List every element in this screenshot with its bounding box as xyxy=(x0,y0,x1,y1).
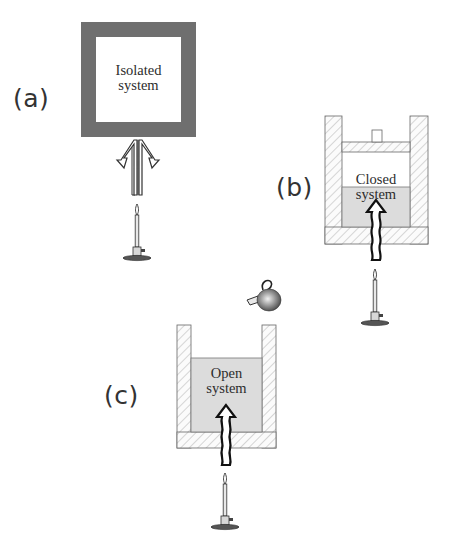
label-line-1: Closed xyxy=(342,172,410,187)
label-line-1: Isolated xyxy=(96,63,181,78)
isolated-system-label: Isolated system xyxy=(96,63,181,93)
open-system-label: Open system xyxy=(191,366,262,396)
closed-system-label: Closed system xyxy=(342,172,410,202)
label-line-1: Open xyxy=(191,366,262,381)
label-line-2: system xyxy=(342,187,410,202)
bunsen-burner-icon xyxy=(123,204,151,261)
figure-canvas xyxy=(0,0,451,537)
deflected-arrows-icon xyxy=(117,140,159,195)
bunsen-burner-icon xyxy=(211,473,239,530)
figure-caption-truncated xyxy=(10,530,450,537)
panel-label-c: (c) xyxy=(104,381,139,410)
panel-label-b: (b) xyxy=(276,173,313,202)
panel-label-a: (a) xyxy=(13,84,49,113)
label-line-2: system xyxy=(191,381,262,396)
label-line-2: system xyxy=(96,78,181,93)
bunsen-burner-icon xyxy=(361,269,389,326)
teapot-icon xyxy=(247,280,281,311)
